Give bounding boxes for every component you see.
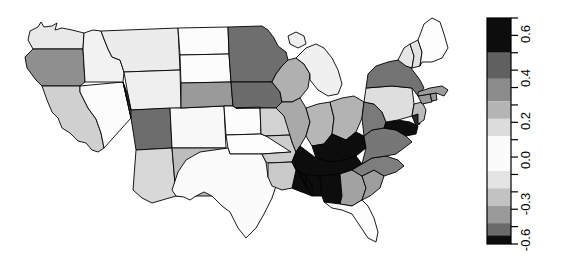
state-ia	[231, 82, 282, 108]
state-sd	[180, 54, 231, 83]
colorbar-label-0: 0.6	[518, 25, 533, 43]
colorbar-band-5	[487, 136, 511, 171]
colorbar-band-2	[487, 79, 511, 102]
state-fl	[324, 200, 378, 242]
colorbar-band-7	[487, 188, 511, 205]
state-nd	[178, 27, 229, 55]
state-wa	[28, 22, 84, 49]
colorbar-band-3	[487, 101, 511, 118]
colorbar-band-1	[487, 53, 511, 79]
colorbar-tick-labels: 0.60.40.20.0-0.3-0.6	[518, 25, 533, 251]
colorbar-bands	[487, 18, 511, 244]
colorbar-label-2: 0.2	[518, 112, 533, 130]
colorbar-panel: 0.60.40.20.0-0.3-0.6	[470, 0, 566, 263]
colorbar-band-9	[487, 223, 511, 235]
state-me	[418, 18, 448, 66]
colorbar-svg: 0.60.40.20.0-0.3-0.6	[470, 0, 566, 263]
colorbar-ticks	[511, 18, 518, 244]
state-co	[170, 106, 226, 148]
choropleth-figure: 0.60.40.20.0-0.3-0.6	[0, 0, 566, 263]
colorbar-band-10	[487, 235, 511, 244]
state-al	[320, 174, 342, 204]
colorbar-label-1: 0.4	[518, 69, 533, 87]
state-ne	[181, 82, 233, 108]
colorbar-band-6	[487, 171, 511, 188]
colorbar-band-8	[487, 206, 511, 223]
us-map-panel	[0, 0, 460, 263]
colorbar-band-4	[487, 119, 511, 136]
state-wy	[124, 70, 181, 110]
colorbar-label-4: -0.3	[518, 193, 533, 215]
state-ks	[224, 106, 261, 135]
states-layer	[25, 18, 448, 242]
colorbar-band-0	[487, 18, 511, 53]
colorbar-label-5: -0.6	[518, 229, 533, 251]
state-or	[25, 49, 85, 86]
us-map-svg	[0, 0, 460, 263]
state-az	[133, 148, 176, 203]
colorbar-label-3: 0.0	[518, 151, 533, 169]
state-tx	[172, 148, 276, 238]
